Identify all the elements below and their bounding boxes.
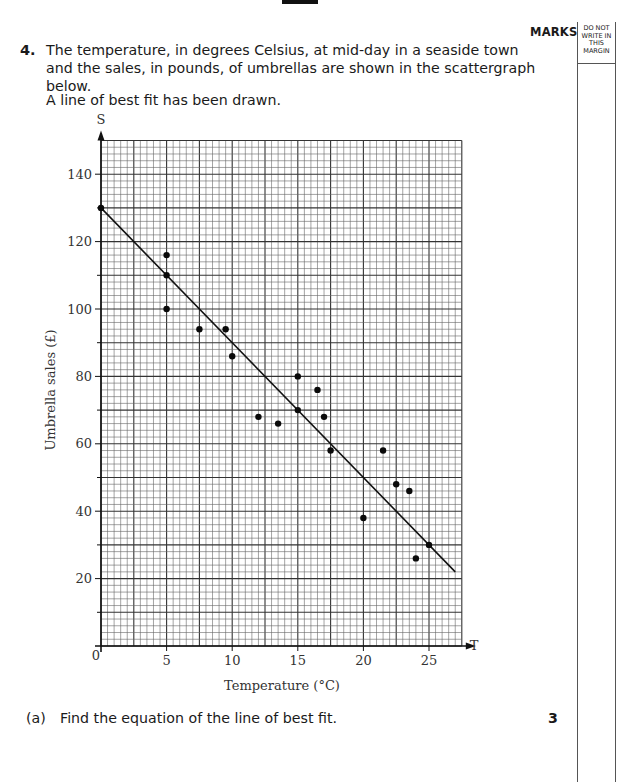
data-point [222, 326, 228, 332]
data-point [327, 447, 333, 453]
data-point [406, 488, 412, 494]
data-point [360, 515, 366, 521]
y-axis-label: Umbrella sales (£) [43, 329, 58, 450]
x-tick-label: 20 [355, 653, 372, 668]
data-point [426, 542, 432, 548]
y-tick-label: 140 [67, 167, 92, 182]
y-tick-label: 80 [75, 369, 92, 384]
y-tick-label: 40 [75, 504, 92, 519]
part-a-marks: 3 [548, 710, 558, 726]
origin-label: 0 [92, 648, 100, 663]
data-point [163, 272, 169, 278]
data-point [229, 353, 235, 359]
part-a-text: Find the equation of the line of best fi… [60, 710, 337, 726]
y-tick-label: 60 [75, 436, 92, 451]
x-axis-label: Temperature (°C) [224, 678, 340, 693]
x-axis-symbol: T [470, 638, 479, 653]
data-point [380, 447, 386, 453]
data-point [295, 407, 301, 413]
data-point [295, 373, 301, 379]
y-tick-label: 20 [75, 571, 92, 586]
data-point [163, 252, 169, 258]
data-point [321, 414, 327, 420]
data-point [413, 555, 419, 561]
y-tick-label: 120 [67, 234, 92, 249]
data-point [196, 326, 202, 332]
y-tick-label: 100 [67, 302, 92, 317]
data-point [98, 205, 104, 211]
data-point [393, 481, 399, 487]
x-tick-label: 25 [421, 653, 438, 668]
scattergraph: 51015202520406080100120140 Umbrella sale… [0, 0, 631, 700]
part-a-label: (a) [26, 710, 46, 726]
axes [95, 131, 476, 653]
data-point [163, 306, 169, 312]
x-tick-label: 15 [290, 653, 307, 668]
x-tick-label: 5 [162, 653, 170, 668]
data-point [255, 414, 261, 420]
y-axis-symbol: S [97, 112, 106, 127]
data-point [314, 387, 320, 393]
x-tick-label: 10 [224, 653, 241, 668]
data-point [275, 420, 281, 426]
